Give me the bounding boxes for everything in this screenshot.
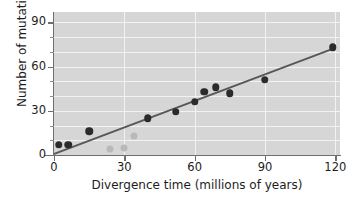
x-tick-label: 120	[320, 162, 350, 174]
data-point-faded	[121, 145, 128, 152]
data-point-faded	[130, 132, 137, 139]
gridline-horizontal	[54, 81, 340, 82]
gridline-horizontal	[54, 140, 340, 141]
x-axis-line	[44, 155, 341, 156]
gridline-vertical	[124, 12, 125, 155]
scatter-plot-figure: 03060900306090120 Divergence time (milli…	[0, 0, 358, 207]
gridline-horizontal	[54, 37, 340, 38]
x-tick-label: 90	[250, 162, 280, 174]
data-point	[200, 88, 208, 96]
y-axis-line	[53, 12, 54, 156]
x-axis-title: Divergence time (millions of years)	[54, 178, 340, 192]
x-tick-label: 0	[39, 162, 69, 174]
gridline-horizontal	[54, 111, 340, 112]
y-tick-minor	[50, 140, 54, 141]
data-point	[261, 76, 269, 84]
gridline-horizontal	[54, 22, 340, 23]
gridline-horizontal	[54, 52, 340, 53]
data-point	[172, 108, 180, 116]
y-tick-minor	[50, 81, 54, 82]
data-point	[64, 141, 72, 149]
data-point	[212, 83, 220, 91]
y-tick-minor	[50, 96, 54, 97]
data-point	[226, 89, 234, 97]
data-point-faded	[107, 146, 114, 153]
plot-area	[54, 12, 340, 155]
y-tick-major	[48, 22, 54, 23]
data-point	[329, 44, 337, 52]
y-tick-minor	[50, 126, 54, 127]
y-axis-title: Number of mutations	[15, 0, 29, 113]
gridline-vertical	[335, 12, 336, 155]
y-tick-minor	[50, 37, 54, 38]
data-point	[191, 98, 199, 106]
gridline-vertical	[195, 12, 196, 155]
gridline-horizontal	[54, 96, 340, 97]
x-tick-label: 30	[109, 162, 139, 174]
gridline-horizontal	[54, 67, 340, 68]
y-tick-minor	[50, 52, 54, 53]
y-tick-major	[48, 111, 54, 112]
x-tick-label: 60	[180, 162, 210, 174]
gridline-horizontal	[54, 126, 340, 127]
data-point	[55, 141, 63, 149]
data-point	[144, 114, 152, 122]
data-point	[85, 128, 93, 136]
y-tick-label: 0	[4, 149, 46, 161]
y-tick-major	[48, 67, 54, 68]
